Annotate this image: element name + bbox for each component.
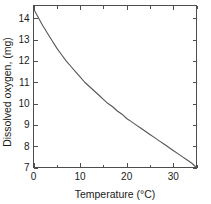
x-tick-label: 10 bbox=[75, 171, 87, 182]
y-axis-title: Dissolved oxygen, (mg) bbox=[1, 37, 13, 147]
y-tick-label: 14 bbox=[18, 13, 30, 24]
data-series-line bbox=[34, 9, 197, 168]
y-axis-ticks-left bbox=[34, 19, 38, 169]
x-axis-ticks-bottom bbox=[35, 163, 198, 168]
y-axis-tick-labels: 7891011121314 bbox=[18, 13, 30, 173]
x-tick-label: 20 bbox=[121, 171, 133, 182]
x-tick-label: 30 bbox=[168, 171, 180, 182]
y-tick-label: 7 bbox=[24, 162, 30, 173]
x-axis-tick-labels: 0102030 bbox=[31, 171, 179, 182]
y-tick-label: 10 bbox=[18, 98, 30, 109]
y-tick-label: 12 bbox=[18, 55, 30, 66]
y-tick-label: 11 bbox=[19, 77, 30, 88]
y-tick-label: 8 bbox=[24, 141, 30, 152]
dissolved-oxygen-chart: 0102030 7891011121314 Temperature (°C) D… bbox=[0, 0, 211, 204]
y-tick-label: 13 bbox=[18, 34, 30, 45]
y-axis-ticks-right bbox=[193, 19, 197, 169]
chart-canvas: 0102030 7891011121314 Temperature (°C) D… bbox=[0, 0, 211, 204]
plot-frame bbox=[34, 6, 197, 168]
x-axis-ticks-top bbox=[35, 6, 198, 11]
x-tick-label: 0 bbox=[31, 171, 37, 182]
y-tick-label: 9 bbox=[24, 119, 30, 130]
x-axis-title: Temperature (°C) bbox=[75, 188, 156, 200]
